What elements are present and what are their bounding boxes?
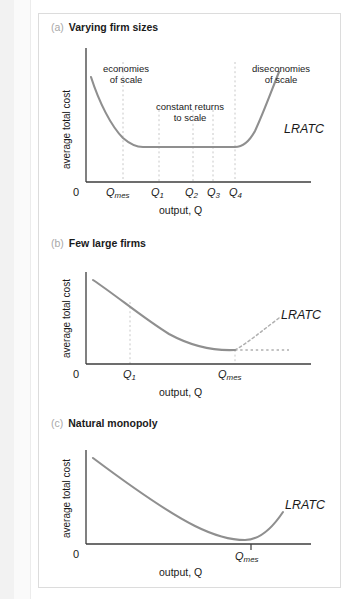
panel-a-origin-label: 0 bbox=[73, 186, 79, 198]
panel-a-annotation-constant-returns: constant returns to scale bbox=[143, 102, 237, 124]
page-margin-outer bbox=[0, 0, 14, 599]
panel-c-axes bbox=[86, 450, 311, 544]
panel-few-large-firms: (b)Few large firms bbox=[39, 230, 342, 410]
panel-b-y-axis-label: average total cost bbox=[61, 279, 72, 358]
panel-a-tick-q2: Q2 bbox=[185, 186, 198, 200]
panel-a-annotation-diseconomies: diseconomies of scale bbox=[237, 64, 325, 86]
panel-b-origin-label: 0 bbox=[73, 368, 79, 380]
panel-b-guidelines bbox=[130, 302, 235, 364]
panel-c-curve-label: LRATC bbox=[285, 498, 325, 512]
panel-b-x-axis-label: output, Q bbox=[159, 386, 202, 398]
panel-c-origin-label: 0 bbox=[73, 548, 79, 560]
panel-c-y-axis-label: average total cost bbox=[61, 459, 72, 538]
panel-c-x-axis-label: output, Q bbox=[159, 566, 202, 578]
panel-a-annotation-economies: economies of scale bbox=[91, 64, 161, 86]
page-margin-rule bbox=[30, 0, 31, 599]
panel-a-tick-qmes: Qmes bbox=[106, 186, 130, 200]
panel-a-y-axis-label: average total cost bbox=[61, 90, 72, 169]
panel-varying-firm-sizes: (a)Varying firm sizes bbox=[39, 14, 342, 230]
panel-c-tick-qmes: Qmes bbox=[235, 550, 259, 564]
panel-b-tick-qmes: Qmes bbox=[218, 368, 242, 382]
panel-a-tick-q4: Q4 bbox=[229, 186, 242, 200]
panel-natural-monopoly: (c)Natural monopoly average total cost L… bbox=[39, 410, 342, 589]
panel-b-lratc-extension bbox=[235, 318, 279, 350]
panel-a-curve-label: LRATC bbox=[284, 122, 324, 136]
page-margin-inner bbox=[14, 0, 31, 599]
panel-c-lratc-curve bbox=[93, 458, 283, 540]
figure-card: (a)Varying firm sizes bbox=[38, 13, 341, 588]
panel-a-tick-q3: Q3 bbox=[207, 186, 220, 200]
figure-page: (a)Varying firm sizes bbox=[0, 0, 352, 599]
panel-a-x-axis-label: output, Q bbox=[159, 204, 202, 216]
panel-b-lratc-curve bbox=[93, 280, 235, 350]
panel-b-curve-label: LRATC bbox=[281, 308, 321, 322]
panel-a-tick-q1: Q1 bbox=[151, 186, 164, 200]
panel-b-tick-q1: Q1 bbox=[123, 368, 136, 382]
